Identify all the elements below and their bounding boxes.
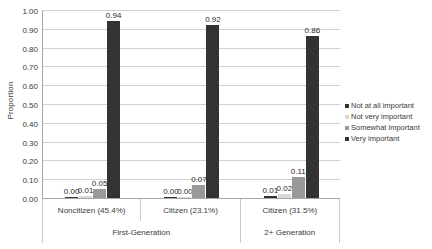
bar-group: 0.000.000.070.92 xyxy=(142,10,241,198)
legend-item[interactable]: Not very important xyxy=(345,111,431,122)
bar[interactable]: 0.94 xyxy=(107,21,120,198)
legend-label: Not at all important xyxy=(351,101,414,110)
legend-swatch-icon xyxy=(345,137,349,141)
generation-group-label: First-Generation xyxy=(42,221,241,243)
y-axis-tick-label: 0.50 xyxy=(8,101,38,110)
bar-value-label: 0.02 xyxy=(277,184,293,193)
plot-area: 0.000.010.050.940.000.000.070.920.010.02… xyxy=(42,10,340,199)
bar[interactable]: 0.00 xyxy=(65,197,78,198)
category-label: Citizen (31.5%) xyxy=(241,199,340,221)
bar-value-label: 0.05 xyxy=(92,179,108,188)
y-axis-tick-label: 0.40 xyxy=(8,119,38,128)
legend-label: Somewhat important xyxy=(351,123,420,132)
bar[interactable]: 0.11 xyxy=(292,177,305,198)
y-axis-tick-label: 0.10 xyxy=(8,176,38,185)
bar-group: 0.000.010.050.94 xyxy=(43,10,142,198)
y-axis-tick-label: 0.60 xyxy=(8,82,38,91)
legend-swatch-icon xyxy=(345,115,349,119)
legend-swatch-icon xyxy=(345,126,349,130)
legend-item[interactable]: Very important xyxy=(345,133,431,144)
bar[interactable]: 0.07 xyxy=(192,185,205,198)
bar-value-label: 0.11 xyxy=(291,167,306,176)
bar[interactable]: 0.00 xyxy=(178,197,191,198)
bar-value-label: 0.00 xyxy=(177,187,193,196)
legend-item[interactable]: Somewhat important xyxy=(345,122,431,133)
bar[interactable]: 0.92 xyxy=(206,25,219,198)
bar-value-label: 0.86 xyxy=(305,26,321,35)
y-axis-tick-label: 0.80 xyxy=(8,44,38,53)
legend-label: Very important xyxy=(351,134,399,143)
y-axis-tick-labels: 1.000.900.800.700.600.500.400.300.200.10… xyxy=(8,10,38,199)
category-axis: Noncitizen (45.4%)Citizen (23.1%)Citizen… xyxy=(42,199,340,243)
legend-swatch-icon xyxy=(345,104,349,108)
bar[interactable]: 0.05 xyxy=(93,189,106,198)
bar[interactable]: 0.00 xyxy=(164,197,177,198)
category-label: Noncitizen (45.4%) xyxy=(42,199,141,221)
y-axis-tick-label: 0.70 xyxy=(8,63,38,72)
generation-group-label: 2+ Generation xyxy=(241,221,340,243)
bar[interactable]: 0.01 xyxy=(79,196,92,198)
bar-value-label: 0.92 xyxy=(205,15,221,24)
chart-legend: Not at all importantNot very importantSo… xyxy=(345,100,431,144)
y-axis-tick-label: 0.30 xyxy=(8,138,38,147)
y-axis-tick-label: 0.20 xyxy=(8,157,38,166)
bar[interactable]: 0.02 xyxy=(278,194,291,198)
legend-item[interactable]: Not at all important xyxy=(345,100,431,111)
bar[interactable]: 0.86 xyxy=(306,36,319,198)
bar-value-label: 0.94 xyxy=(106,11,122,20)
y-axis-tick-label: 0.90 xyxy=(8,25,38,34)
y-axis-tick-label: 1.00 xyxy=(8,7,38,16)
bar-value-label: 0.07 xyxy=(191,175,207,184)
bar-group: 0.010.020.110.86 xyxy=(242,10,341,198)
y-axis-tick-label: 0.00 xyxy=(8,195,38,204)
legend-label: Not very important xyxy=(351,112,412,121)
bar[interactable]: 0.01 xyxy=(264,196,277,198)
category-label: Citizen (23.1%) xyxy=(141,199,240,221)
bar-chart: Proportion 1.000.900.800.700.600.500.400… xyxy=(0,0,432,249)
